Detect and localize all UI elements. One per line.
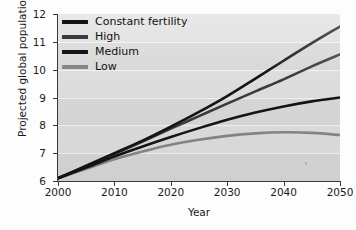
y-axis-line (57, 14, 58, 182)
legend-item: Low (62, 60, 187, 74)
y-tick-label: 9 (0, 93, 46, 103)
legend-swatch-icon (62, 65, 88, 69)
legend-label: Low (95, 61, 117, 73)
x-tick-label: 2040 (262, 187, 306, 198)
legend-item: Medium (62, 45, 187, 59)
y-tick-label: 11 (0, 37, 46, 47)
x-tick-label: 2000 (36, 187, 80, 198)
y-tick-mark (53, 70, 57, 71)
y-tick-label: 12 (0, 9, 46, 19)
scan-artifact (305, 162, 307, 165)
legend: Constant fertilityHighMediumLow (62, 15, 187, 74)
legend-label: High (95, 31, 120, 43)
y-tick-label: 10 (0, 65, 46, 75)
x-tick-label: 2020 (149, 187, 193, 198)
y-tick-mark (53, 181, 57, 182)
legend-swatch-icon (62, 20, 88, 24)
x-tick-label: 2050 (318, 187, 356, 198)
y-tick-mark (53, 153, 57, 154)
legend-label: Medium (95, 46, 139, 58)
legend-item: High (62, 30, 187, 44)
figure: Projected global population (billions) C… (0, 0, 356, 230)
y-tick-mark (53, 125, 57, 126)
y-tick-label: 8 (0, 120, 46, 130)
legend-swatch-icon (62, 50, 88, 54)
y-tick-label: 6 (0, 176, 46, 186)
legend-item: Constant fertility (62, 15, 187, 29)
y-tick-label: 7 (0, 148, 46, 158)
x-tick-label: 2010 (92, 187, 136, 198)
legend-swatch-icon (62, 35, 88, 39)
legend-label: Constant fertility (95, 16, 187, 28)
y-tick-mark (53, 98, 57, 99)
series-line (58, 98, 340, 179)
x-axis-title: Year (58, 206, 340, 218)
x-axis-line (57, 181, 341, 182)
x-tick-label: 2030 (205, 187, 249, 198)
series-line (58, 132, 340, 178)
y-tick-mark (53, 14, 57, 15)
y-tick-mark (53, 42, 57, 43)
